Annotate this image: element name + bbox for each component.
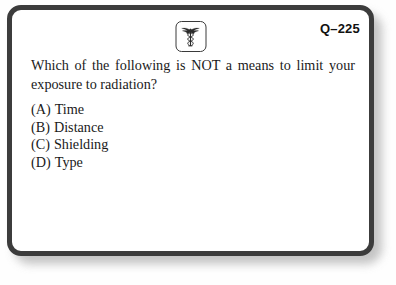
question-text: Which of the following is NOT a means to… [31, 56, 357, 94]
option-c[interactable]: (C)Shielding [31, 136, 357, 154]
option-a[interactable]: (A)Time [31, 101, 357, 119]
option-b-label: Distance [54, 119, 104, 135]
question-id-label: Q–225 [320, 21, 360, 36]
page-canvas: Q–225 Which of the following is NOT a me… [0, 0, 396, 285]
option-a-key: (A) [31, 101, 51, 117]
option-b-key: (B) [31, 119, 50, 135]
option-d-key: (D) [31, 154, 51, 170]
option-c-key: (C) [31, 136, 50, 152]
question-line-1: Which of the following is NOT a means to… [31, 56, 355, 75]
card-header: Q–225 [12, 10, 369, 56]
option-b[interactable]: (B)Distance [31, 119, 357, 137]
option-a-label: Time [55, 101, 84, 117]
question-card: Q–225 Which of the following is NOT a me… [7, 5, 374, 256]
option-c-label: Shielding [54, 136, 108, 152]
question-line-2: exposure to radiation? [31, 75, 355, 94]
option-d[interactable]: (D)Type [31, 154, 357, 172]
card-body: Which of the following is NOT a means to… [12, 56, 369, 171]
option-d-label: Type [55, 154, 83, 170]
answer-options-list: (A)Time (B)Distance (C)Shielding (D)Type [31, 101, 357, 171]
caduceus-icon [175, 21, 206, 52]
